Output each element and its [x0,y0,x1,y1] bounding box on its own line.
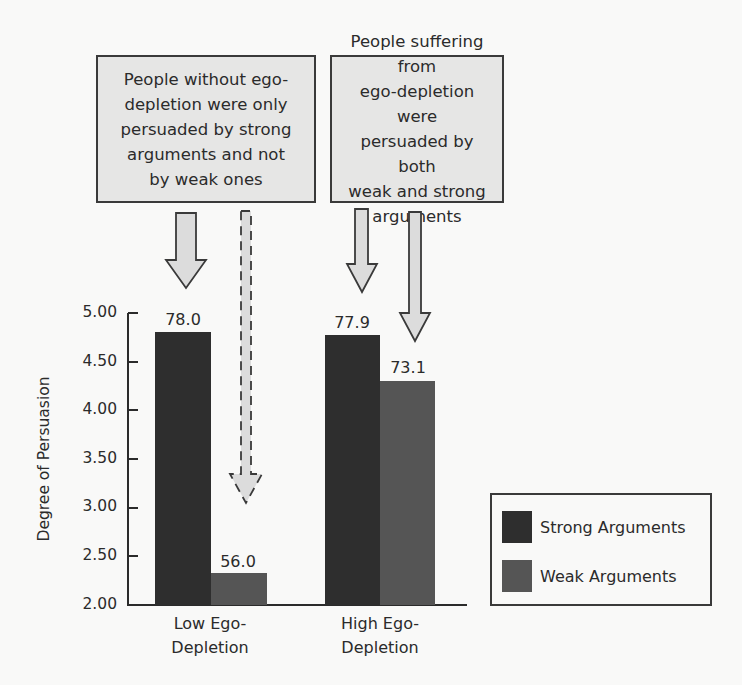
bar-high-weak [380,381,435,605]
x-category-line: Depletion [140,636,280,660]
x-category-line: Low Ego- [140,612,280,636]
legend-item-weak: Weak Arguments [502,560,677,592]
x-category-line: Depletion [310,636,450,660]
data-label: 78.0 [153,310,213,329]
legend-item-strong: Strong Arguments [502,511,686,543]
legend: Strong Arguments Weak Arguments [490,493,712,606]
data-label: 77.9 [322,313,382,332]
bar-high-strong [325,335,380,605]
legend-label: Strong Arguments [540,518,686,537]
bar-low-strong [155,332,211,605]
legend-label: Weak Arguments [540,567,677,586]
legend-swatch-strong [502,511,532,543]
x-category-line: High Ego- [310,612,450,636]
x-category-low: Low Ego- Depletion [140,612,280,660]
x-category-high: High Ego- Depletion [310,612,450,660]
data-label: 56.0 [208,552,268,571]
bar-low-weak [211,573,267,605]
legend-swatch-weak [502,560,532,592]
data-label: 73.1 [378,358,438,377]
